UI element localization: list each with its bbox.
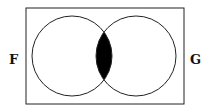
set-g-label: G [190, 52, 201, 67]
venn-diagram [0, 0, 208, 110]
set-f-label: F [9, 52, 18, 67]
